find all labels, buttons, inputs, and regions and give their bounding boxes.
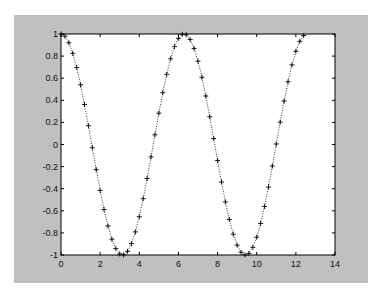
y-tick-label: -0.2 bbox=[42, 162, 58, 172]
y-tick-label: 1 bbox=[53, 29, 58, 39]
x-tick-label: 8 bbox=[215, 259, 220, 269]
y-tick-label: -0.6 bbox=[42, 206, 58, 216]
x-tick-label: 6 bbox=[176, 259, 181, 269]
y-tick-label: 0.6 bbox=[45, 73, 58, 83]
x-tick-label: 2 bbox=[98, 259, 103, 269]
x-tick-label: 0 bbox=[58, 259, 63, 269]
x-tick-label: 10 bbox=[252, 259, 262, 269]
x-tick-label: 12 bbox=[291, 259, 301, 269]
y-tick-label: 0 bbox=[53, 140, 58, 150]
x-tick-label: 14 bbox=[330, 259, 340, 269]
y-tick-label: -0.8 bbox=[42, 228, 58, 238]
x-tick-label: 4 bbox=[137, 259, 142, 269]
y-tick-label: 0.8 bbox=[45, 51, 58, 61]
y-tick-label: 0.2 bbox=[45, 117, 58, 127]
axes-area bbox=[61, 34, 335, 255]
y-tick-label: -1 bbox=[50, 250, 58, 260]
y-tick-label: 0.4 bbox=[45, 95, 58, 105]
y-tick-label: -0.4 bbox=[42, 184, 58, 194]
cosine-plot: 02468101214 10.80.60.40.20-0.2-0.4-0.6-0… bbox=[0, 0, 385, 300]
